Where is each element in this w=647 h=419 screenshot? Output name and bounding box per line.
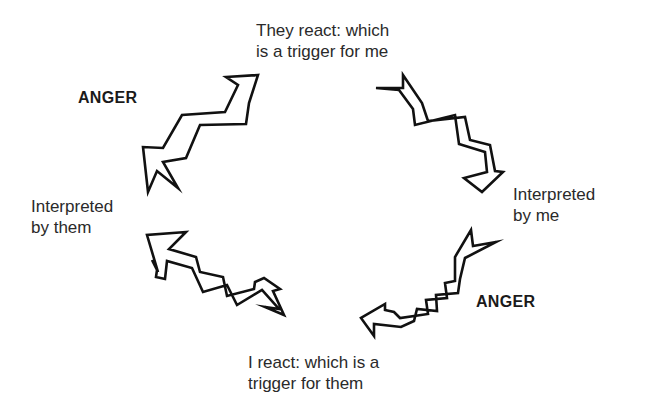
cycle-arrows xyxy=(0,0,647,419)
zigzag-arrow-top-to-right-icon xyxy=(376,75,503,192)
zigzag-arrow-bottom-to-left-icon xyxy=(147,232,284,315)
zigzag-arrow-right-to-bottom-icon xyxy=(361,230,496,336)
zigzag-arrow-left-to-top-icon xyxy=(143,75,258,192)
